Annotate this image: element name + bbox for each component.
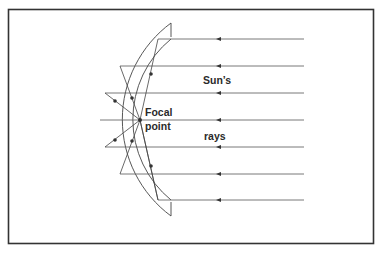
incoming-rays [100, 39, 304, 200]
focal-point-label-line1: Focal [145, 106, 173, 118]
focal-point-label-line2: point [145, 120, 171, 132]
rays-label: rays [204, 130, 226, 142]
diagram-frame [9, 10, 374, 244]
ray-arrowheads [216, 37, 221, 202]
concave-mirror-diagram: Focal point Sun’s rays [0, 0, 381, 254]
suns-label: Sun’s [203, 74, 231, 86]
